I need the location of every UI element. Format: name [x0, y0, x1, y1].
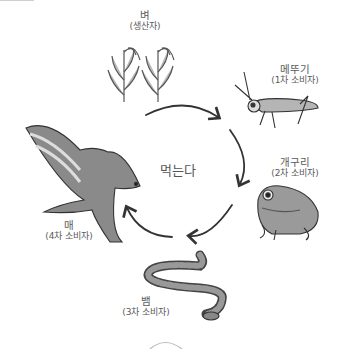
frog-icon — [258, 186, 318, 240]
partial-circle — [150, 343, 182, 349]
node-frog-label: 개구리 (2차 소비자) — [258, 157, 332, 179]
node-rice-label: 벼 (생산자) — [117, 10, 173, 32]
center-label: 먹는다 — [160, 160, 196, 179]
node-grasshopper-label: 메뚜기 (1차 소비자) — [258, 64, 332, 86]
node-hawk-label: 매 (4차 소비자) — [32, 220, 106, 242]
rice-plant-icon — [108, 48, 174, 102]
node-snake-label: 뱀 (3차 소비자) — [109, 296, 183, 318]
